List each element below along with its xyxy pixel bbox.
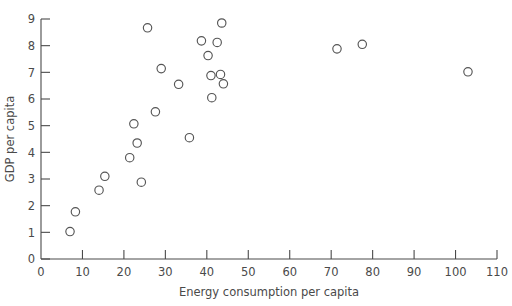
x-axis-tick-label: 40 [199,265,214,279]
x-axis-tick-label: 90 [407,265,422,279]
y-axis-tick-label: 0 [28,252,35,266]
x-axis-title: Energy consumption per capita [179,285,359,299]
y-axis-tick-label: 1 [28,226,35,240]
x-axis-tick-label: 30 [158,265,173,279]
y-axis-tick-label: 5 [28,119,35,133]
y-axis-tick-label: 9 [28,12,35,26]
x-axis-tick-label: 20 [117,265,132,279]
y-axis-tick-label: 4 [28,146,35,160]
scatter-chart: 0123456789 0102030405060708090100110 Ene… [0,0,512,306]
y-axis-tick-label: 6 [28,92,35,106]
chart-canvas: 0123456789 0102030405060708090100110 Ene… [0,0,512,306]
x-axis-tick-label: 80 [365,265,380,279]
y-axis-title: GDP per capita [3,96,17,183]
x-axis-tick-label: 100 [445,265,467,279]
chart-background [0,0,512,306]
x-axis-tick-label: 50 [241,265,256,279]
y-axis-tick-label: 7 [28,66,35,80]
x-axis-tick-label: 60 [282,265,297,279]
x-axis-tick-label: 70 [324,265,339,279]
y-axis-tick-label: 8 [28,39,35,53]
y-axis-tick-label: 2 [28,199,35,213]
y-axis-tick-label: 3 [28,172,35,186]
x-axis-tick-label: 110 [486,265,508,279]
x-axis-tick-label: 0 [37,265,44,279]
x-axis-tick-label: 10 [75,265,90,279]
